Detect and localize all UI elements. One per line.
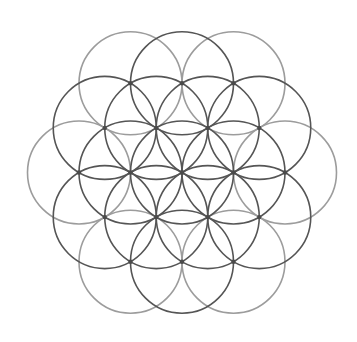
vertex-dot <box>231 260 235 264</box>
vertex-dot <box>128 260 132 264</box>
vertex-dot <box>206 215 210 219</box>
vertex-dot <box>128 170 132 174</box>
flower-of-life-diagram <box>0 0 357 342</box>
vertex-dot <box>283 170 287 174</box>
vertex-dot <box>180 260 184 264</box>
vertex-dot <box>128 81 132 85</box>
vertex-dot <box>257 215 261 219</box>
vertex-dot <box>206 126 210 130</box>
vertex-dot <box>180 170 184 174</box>
vertex-dot <box>77 170 81 174</box>
vertex-dot <box>257 126 261 130</box>
vertex-dot <box>154 126 158 130</box>
vertex-dot <box>180 81 184 85</box>
vertex-dot <box>103 215 107 219</box>
vertex-dot <box>154 215 158 219</box>
vertex-dot <box>231 81 235 85</box>
vertex-dot <box>231 170 235 174</box>
vertex-dot <box>103 126 107 130</box>
